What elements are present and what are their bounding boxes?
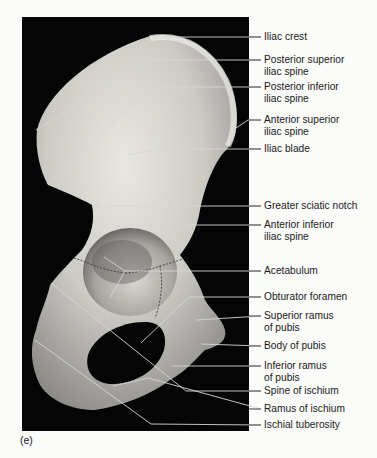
label-obturator-foramen: Obturator foramen (264, 291, 347, 303)
panel-letter: (e) (20, 434, 33, 446)
label-posterior-superior-iliac-spine: Posterior superior iliac spine (264, 54, 344, 78)
label-superior-ramus-of-pubis: Superior ramus of pubis (264, 310, 334, 334)
label-ischial-tuberosity: Ischial tuberosity (264, 419, 340, 431)
label-posterior-inferior-iliac-spine: Posterior inferior iliac spine (264, 81, 339, 105)
label-anterior-inferior-iliac-spine: Anterior inferior iliac spine (264, 219, 334, 243)
label-spine-of-ischium: Spine of ischium (264, 385, 339, 397)
label-iliac-blade: Iliac blade (264, 143, 310, 155)
label-inferior-ramus-of-pubis: Inferior ramus of pubis (264, 360, 327, 384)
label-anterior-superior-iliac-spine: Anterior superior iliac spine (264, 114, 339, 138)
label-ramus-of-ischium: Ramus of ischium (264, 403, 345, 415)
label-acetabulum: Acetabulum (264, 265, 318, 277)
label-iliac-crest: Iliac crest (264, 31, 307, 43)
pelvic-bone-figure: Iliac crest Posterior superior iliac spi… (0, 0, 377, 458)
label-greater-sciatic-notch: Greater sciatic notch (264, 200, 357, 212)
label-body-of-pubis: Body of pubis (264, 340, 326, 352)
